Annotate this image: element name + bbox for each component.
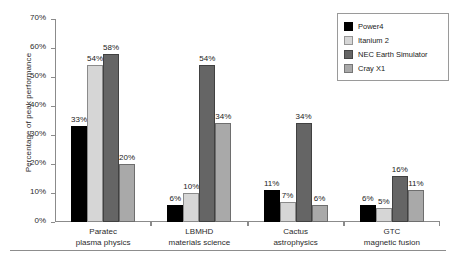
bar-value-label: 6%: [362, 194, 374, 203]
bar[interactable]: [312, 205, 328, 222]
bar-group: 6%10%54%34%: [151, 19, 247, 222]
bar-slot: 11%: [264, 19, 280, 222]
bar[interactable]: [296, 123, 312, 222]
x-axis-category: Paratecplasma physics: [55, 226, 151, 248]
legend-swatch-icon: [344, 50, 353, 59]
bar[interactable]: [103, 54, 119, 222]
bar-slot: 34%: [215, 19, 231, 222]
x-axis-category-labels: Paratecplasma physicsLBMHDmaterials scie…: [55, 226, 440, 248]
legend: Power4Itanium 2NEC Earth SimulatorCray X…: [337, 13, 449, 81]
bar-value-label: 7%: [282, 191, 294, 200]
bar[interactable]: [199, 65, 215, 222]
legend-label: Itanium 2: [358, 36, 389, 45]
bar-value-label: 5%: [378, 197, 390, 206]
category-sublabel: magnetic fusion: [344, 237, 440, 248]
y-axis-tick-label: 10%: [30, 187, 46, 196]
bar[interactable]: [280, 202, 296, 222]
category-name: LBMHD: [151, 226, 247, 237]
legend-swatch-icon: [344, 36, 353, 45]
bar-group: 33%54%58%20%: [55, 19, 151, 222]
bar-value-label: 33%: [71, 115, 87, 124]
category-name: Cactus: [248, 226, 344, 237]
legend-item[interactable]: Itanium 2: [344, 33, 442, 47]
y-axis-tick-label: 30%: [30, 129, 46, 138]
bar-slot: 7%: [280, 19, 296, 222]
bar-slot: 6%: [167, 19, 183, 222]
bar-slot: 10%: [183, 19, 199, 222]
y-axis-tick-mark: [51, 222, 55, 223]
bar[interactable]: [167, 205, 183, 222]
bar-slot: 54%: [199, 19, 215, 222]
bar-slot: 34%: [296, 19, 312, 222]
legend-item[interactable]: Power4: [344, 19, 442, 33]
bar-slot: 6%: [312, 19, 328, 222]
y-axis-tick-label: 50%: [30, 71, 46, 80]
bar-value-label: 34%: [296, 112, 312, 121]
bar[interactable]: [119, 164, 135, 222]
bar-value-label: 54%: [199, 54, 215, 63]
bar[interactable]: [183, 193, 199, 222]
bar-value-label: 58%: [103, 43, 119, 52]
bar[interactable]: [376, 208, 392, 223]
bar[interactable]: [87, 65, 103, 222]
y-axis-tick-label: 40%: [30, 100, 46, 109]
legend-item[interactable]: NEC Earth Simulator: [344, 47, 442, 61]
bottom-divider: [10, 250, 446, 251]
bar-slot: 33%: [71, 19, 87, 222]
bar-value-label: 20%: [119, 153, 135, 162]
bar-value-label: 54%: [87, 54, 103, 63]
bar[interactable]: [408, 190, 424, 222]
category-sublabel: materials science: [151, 237, 247, 248]
bar-value-label: 11%: [264, 179, 279, 188]
bar-value-label: 11%: [408, 179, 423, 188]
bar-value-label: 6%: [170, 194, 182, 203]
y-axis-tick-label: 20%: [30, 158, 46, 167]
bar-slot: 58%: [103, 19, 119, 222]
bar-value-label: 6%: [314, 194, 326, 203]
legend-swatch-icon: [344, 22, 353, 31]
legend-swatch-icon: [344, 64, 353, 73]
category-name: Paratec: [55, 226, 151, 237]
bar-slot: 20%: [119, 19, 135, 222]
legend-label: Power4: [358, 22, 383, 31]
bar-value-label: 34%: [215, 112, 231, 121]
y-axis-tick-label: 70%: [30, 13, 46, 22]
bar[interactable]: [215, 123, 231, 222]
x-axis-category: LBMHDmaterials science: [151, 226, 247, 248]
bar-slot: 54%: [87, 19, 103, 222]
x-axis-category: GTCmagnetic fusion: [344, 226, 440, 248]
category-sublabel: astrophysics: [248, 237, 344, 248]
y-axis-title: Percentage of peak performance: [24, 8, 33, 218]
category-name: GTC: [344, 226, 440, 237]
bar[interactable]: [392, 176, 408, 222]
bar-group: 11%7%34%6%: [248, 19, 344, 222]
bar[interactable]: [71, 126, 87, 222]
bar-value-label: 10%: [183, 182, 199, 191]
legend-item[interactable]: Cray X1: [344, 61, 442, 75]
category-sublabel: plasma physics: [55, 237, 151, 248]
bar[interactable]: [264, 190, 280, 222]
bar[interactable]: [360, 205, 376, 222]
legend-label: NEC Earth Simulator: [358, 50, 428, 59]
legend-label: Cray X1: [358, 64, 385, 73]
y-axis-tick-label: 60%: [30, 42, 46, 51]
bar-chart: Percentage of peak performance 70%60%50%…: [0, 0, 456, 261]
y-axis-tick-label: 0%: [34, 216, 46, 225]
bar-value-label: 16%: [392, 165, 408, 174]
x-axis-category: Cactusastrophysics: [248, 226, 344, 248]
